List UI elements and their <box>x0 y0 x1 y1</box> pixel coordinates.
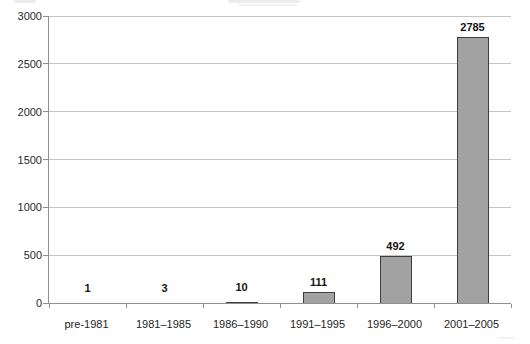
y-tick-label-0: 0 <box>0 297 42 309</box>
bar-value-label: 111 <box>310 276 327 288</box>
y-tick-label-2000: 2000 <box>0 106 42 118</box>
y-tick-0 <box>43 303 48 304</box>
scan-artifact <box>228 0 300 3</box>
x-category-label: 1981–1985 <box>136 318 191 330</box>
bar-2001–2005 <box>457 37 489 303</box>
bar-value-label: 1 <box>84 282 90 294</box>
x-category-label: 1986–1990 <box>213 318 268 330</box>
y-tick-1500 <box>43 159 48 160</box>
gridline-2000 <box>49 111 511 112</box>
gridline-1500 <box>49 159 511 160</box>
y-tick-label-1000: 1000 <box>0 201 42 213</box>
x-category-label: 1996–2000 <box>367 318 422 330</box>
bar-chart-figure: 13101114922785 050010001500200025003000 … <box>0 0 530 344</box>
bar-1991–1995 <box>303 292 335 303</box>
bar-1986–1990 <box>226 302 258 303</box>
x-tick-6 <box>511 304 512 308</box>
x-category-label: 2001–2005 <box>444 318 499 330</box>
gridline-1000 <box>49 207 511 208</box>
x-category-label: pre-1981 <box>64 318 108 330</box>
y-tick-3000 <box>43 16 48 17</box>
y-tick-label-2500: 2500 <box>0 58 42 70</box>
y-tick-label-3000: 3000 <box>0 10 42 22</box>
y-tick-500 <box>43 255 48 256</box>
x-tick-2 <box>203 304 204 308</box>
bar-value-label: 2785 <box>460 21 484 33</box>
gridline-3000 <box>49 16 511 17</box>
scan-artifact <box>14 0 36 3</box>
bar-value-label: 3 <box>161 282 167 294</box>
y-tick-2000 <box>43 111 48 112</box>
x-tick-1 <box>126 304 127 308</box>
y-tick-label-500: 500 <box>0 249 42 261</box>
scan-artifact <box>497 337 515 339</box>
bar-value-label: 492 <box>386 240 404 252</box>
bar-value-label: 10 <box>235 281 247 293</box>
gridline-2500 <box>49 63 511 64</box>
x-tick-4 <box>357 304 358 308</box>
x-tick-5 <box>434 304 435 308</box>
bar-1996–2000 <box>380 256 412 303</box>
x-tick-3 <box>280 304 281 308</box>
gridline-500 <box>49 255 511 256</box>
x-category-label: 1991–1995 <box>290 318 345 330</box>
y-tick-2500 <box>43 63 48 64</box>
scan-artifact <box>237 4 298 6</box>
y-tick-1000 <box>43 207 48 208</box>
y-tick-label-1500: 1500 <box>0 154 42 166</box>
x-tick-0 <box>49 304 50 308</box>
plot-area: 13101114922785 <box>48 16 511 304</box>
